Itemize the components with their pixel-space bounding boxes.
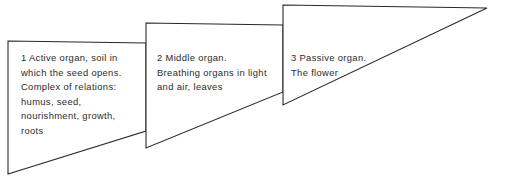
label-line: which the seed opens.: [21, 66, 122, 81]
middle-organ-label: 2 Middle organ. Breathing organs in ligh…: [157, 51, 267, 95]
label-line: humus, seed,: [21, 95, 122, 110]
label-line: nourishment, growth,: [21, 109, 122, 124]
label-line: Breathing organs in light: [157, 66, 267, 81]
label-line: roots: [21, 124, 122, 139]
label-line: The flower: [291, 66, 366, 81]
label-line: 1 Active organ, soil in: [21, 51, 122, 66]
label-line: and air, leaves: [157, 80, 267, 95]
label-line: 2 Middle organ.: [157, 51, 267, 66]
label-line: 3 Passive organ.: [291, 51, 366, 66]
label-line: Complex of relations:: [21, 80, 122, 95]
passive-organ-label: 3 Passive organ. The flower: [291, 51, 366, 80]
active-organ-label: 1 Active organ, soil in which the seed o…: [21, 51, 122, 139]
